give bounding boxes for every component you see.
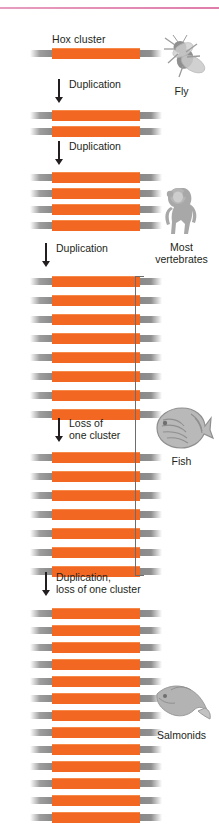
cluster-flank-right: [140, 644, 162, 651]
transition-step: Duplication, loss of one cluster: [42, 572, 141, 596]
hox-cluster-bar: [52, 608, 140, 619]
cluster-flank-right: [140, 112, 162, 119]
hox-cluster-bar: [52, 452, 140, 463]
transition-step: Loss of one cluster: [55, 418, 120, 442]
transition-step: Duplication: [42, 243, 108, 267]
hox-cluster-bar: [52, 172, 140, 183]
salmon-icon: [151, 680, 213, 726]
down-arrow-icon: [42, 243, 51, 267]
hox-cluster-bar: [52, 371, 140, 382]
cluster-flank-right: [140, 780, 162, 787]
hox-cluster-bar: [52, 110, 140, 121]
hox-cluster-row: [30, 744, 164, 755]
cluster-flank-left: [30, 511, 52, 518]
cluster-flank-left: [30, 335, 52, 342]
cluster-flank-left: [30, 454, 52, 461]
cluster-flank-left: [30, 206, 52, 213]
fish-icon: [149, 404, 215, 452]
cluster-flank-left: [30, 763, 52, 770]
organism-salmonids: Salmonids: [142, 680, 219, 741]
hox-cluster-row: [30, 608, 164, 619]
cluster-flank-left: [30, 695, 52, 702]
hox-cluster-bar: [52, 778, 140, 789]
monkey-icon: [155, 182, 209, 238]
cluster-flank-left: [30, 492, 52, 499]
hox-cluster-bar: [52, 710, 140, 721]
hox-cluster-bar: [52, 352, 140, 363]
cluster-flank-left: [30, 644, 52, 651]
cluster-flank-left: [30, 174, 52, 181]
hox-cluster-bar: [52, 220, 140, 231]
cluster-flank-right: [140, 610, 162, 617]
organism-fly: Fly: [142, 30, 219, 97]
hox-cluster-row: [30, 625, 164, 636]
hox-cluster-bar: [52, 490, 140, 501]
cluster-flank-left: [30, 729, 52, 736]
organism-fish: Fish: [142, 404, 219, 467]
down-arrow-icon: [42, 572, 51, 596]
cluster-flank-left: [30, 392, 52, 399]
hox-cluster-bar: [52, 204, 140, 215]
hox-cluster-bar: [52, 625, 140, 636]
transition-step-label: Duplication: [56, 243, 108, 255]
hox-cluster-row: [30, 795, 164, 806]
cluster-flank-left: [30, 610, 52, 617]
hox-cluster-bar: [52, 390, 140, 401]
cluster-flank-left: [30, 780, 52, 787]
cluster-flank-left: [30, 190, 52, 197]
hox-cluster-bar: [52, 276, 140, 287]
transition-step: Duplication: [55, 141, 121, 165]
cluster-flank-left: [30, 222, 52, 229]
transition-step-label: Duplication: [69, 79, 121, 91]
cluster-flank-left: [30, 354, 52, 361]
hox-cluster-bar: [52, 188, 140, 199]
hox-cluster-bar: [52, 642, 140, 653]
hox-cluster-row: [30, 642, 164, 653]
hox-cluster-row: [30, 126, 164, 137]
cluster-flank-left: [30, 316, 52, 323]
hox-cluster-bar: [52, 761, 140, 772]
transition-step-label: Duplication: [69, 141, 121, 153]
cluster-flank-left: [30, 712, 52, 719]
hox-cluster-row: [30, 110, 164, 121]
hox-cluster-row: [30, 812, 164, 823]
cluster-flank-left: [30, 50, 52, 57]
organism-fish-label: Fish: [142, 455, 219, 467]
cluster-flank-right: [140, 797, 162, 804]
cluster-flank-left: [30, 797, 52, 804]
cluster-flank-left: [30, 128, 52, 135]
hox-cluster-bar: [52, 126, 140, 137]
hox-cluster-bar: [52, 528, 140, 539]
cluster-flank-left: [30, 678, 52, 685]
hox-cluster-bar: [52, 547, 140, 558]
hox-cluster-bar: [52, 509, 140, 520]
hox-cluster-bar: [52, 693, 140, 704]
transition-step-label: Loss of one cluster: [69, 418, 120, 441]
cluster-flank-right: [140, 746, 162, 753]
organism-most-vertebrates-label: Most vertebrates: [142, 241, 219, 265]
hox-cluster-bar: [52, 744, 140, 755]
hox-cluster-bar: [52, 333, 140, 344]
cluster-flank-right: [140, 627, 162, 634]
hox-cluster-bar: [52, 314, 140, 325]
down-arrow-icon: [55, 141, 64, 165]
cluster-flank-left: [30, 627, 52, 634]
organism-salmonids-label: Salmonids: [142, 729, 219, 741]
hox-cluster-row: [30, 659, 164, 670]
down-arrow-icon: [55, 418, 64, 442]
organism-fly-label: Fly: [142, 85, 219, 97]
cluster-flank-left: [30, 814, 52, 821]
hox-cluster-bar: [52, 795, 140, 806]
down-arrow-icon: [55, 79, 64, 103]
hox-cluster-bar: [52, 812, 140, 823]
top-divider-rule: [0, 7, 219, 9]
hox-cluster-row: [30, 778, 164, 789]
hox-cluster-bar: [52, 471, 140, 482]
hox-cluster-bar: [52, 48, 140, 59]
cluster-flank-left: [30, 411, 52, 418]
fly-icon: [153, 30, 211, 82]
organism-most-vertebrates: Most vertebrates: [142, 182, 219, 265]
transition-step-label: Duplication, loss of one cluster: [56, 572, 141, 595]
hox-cluster-bar: [52, 659, 140, 670]
hox-cluster-row: [30, 761, 164, 772]
